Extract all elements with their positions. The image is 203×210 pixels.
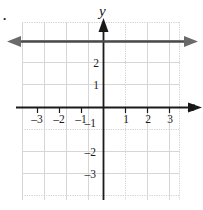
x-tick-label-2: 2 <box>138 114 158 126</box>
y-tick-label-neg2: –2 <box>74 147 96 159</box>
plot-area: –3 –2 –1 1 2 3 2 1 –1 –2 –3 <box>22 22 180 200</box>
y-tick-label-1: 1 <box>77 80 99 92</box>
plotted-line-y-equals-3 <box>22 22 180 200</box>
y-tick-label-neg1: –1 <box>74 118 96 130</box>
line-left-arrowhead <box>7 36 21 47</box>
y-axis-label: y <box>99 4 106 19</box>
x-tick-label-neg3: –3 <box>27 114 47 126</box>
coordinate-plane-figure: . <box>0 0 203 210</box>
x-tick-label-3: 3 <box>160 114 180 126</box>
y-tick-label-2: 2 <box>77 58 99 70</box>
line-right-arrowhead <box>184 36 198 47</box>
y-tick-label-neg3: –3 <box>74 169 96 181</box>
x-axis-label: x <box>188 99 195 114</box>
x-tick-label-neg2: –2 <box>49 114 69 126</box>
x-tick-label-1: 1 <box>116 114 136 126</box>
